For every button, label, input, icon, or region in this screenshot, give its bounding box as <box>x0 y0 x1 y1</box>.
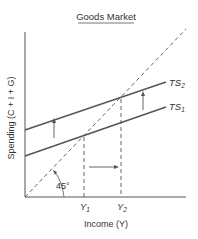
income-shift-arrow <box>89 165 119 169</box>
diagram-title: Goods Market <box>76 11 136 22</box>
ts1-line <box>25 107 166 156</box>
y2-tick-label: Y2 <box>117 201 127 213</box>
angle-label: 45° <box>56 181 70 191</box>
ts2-line <box>25 82 166 130</box>
ts1-label: TS1 <box>169 101 185 113</box>
shift-up-arrow-right <box>141 91 145 110</box>
goods-market-diagram: Goods Market 45° TS2 TS1 Y1 Y2 Income (Y… <box>0 0 198 239</box>
45-degree-line <box>25 29 186 197</box>
y-axis-label: Spending (C + I + G) <box>6 76 16 159</box>
ts2-label: TS2 <box>169 77 185 89</box>
x-axis-label: Income (Y) <box>84 219 128 229</box>
y1-tick-label: Y1 <box>80 201 90 213</box>
